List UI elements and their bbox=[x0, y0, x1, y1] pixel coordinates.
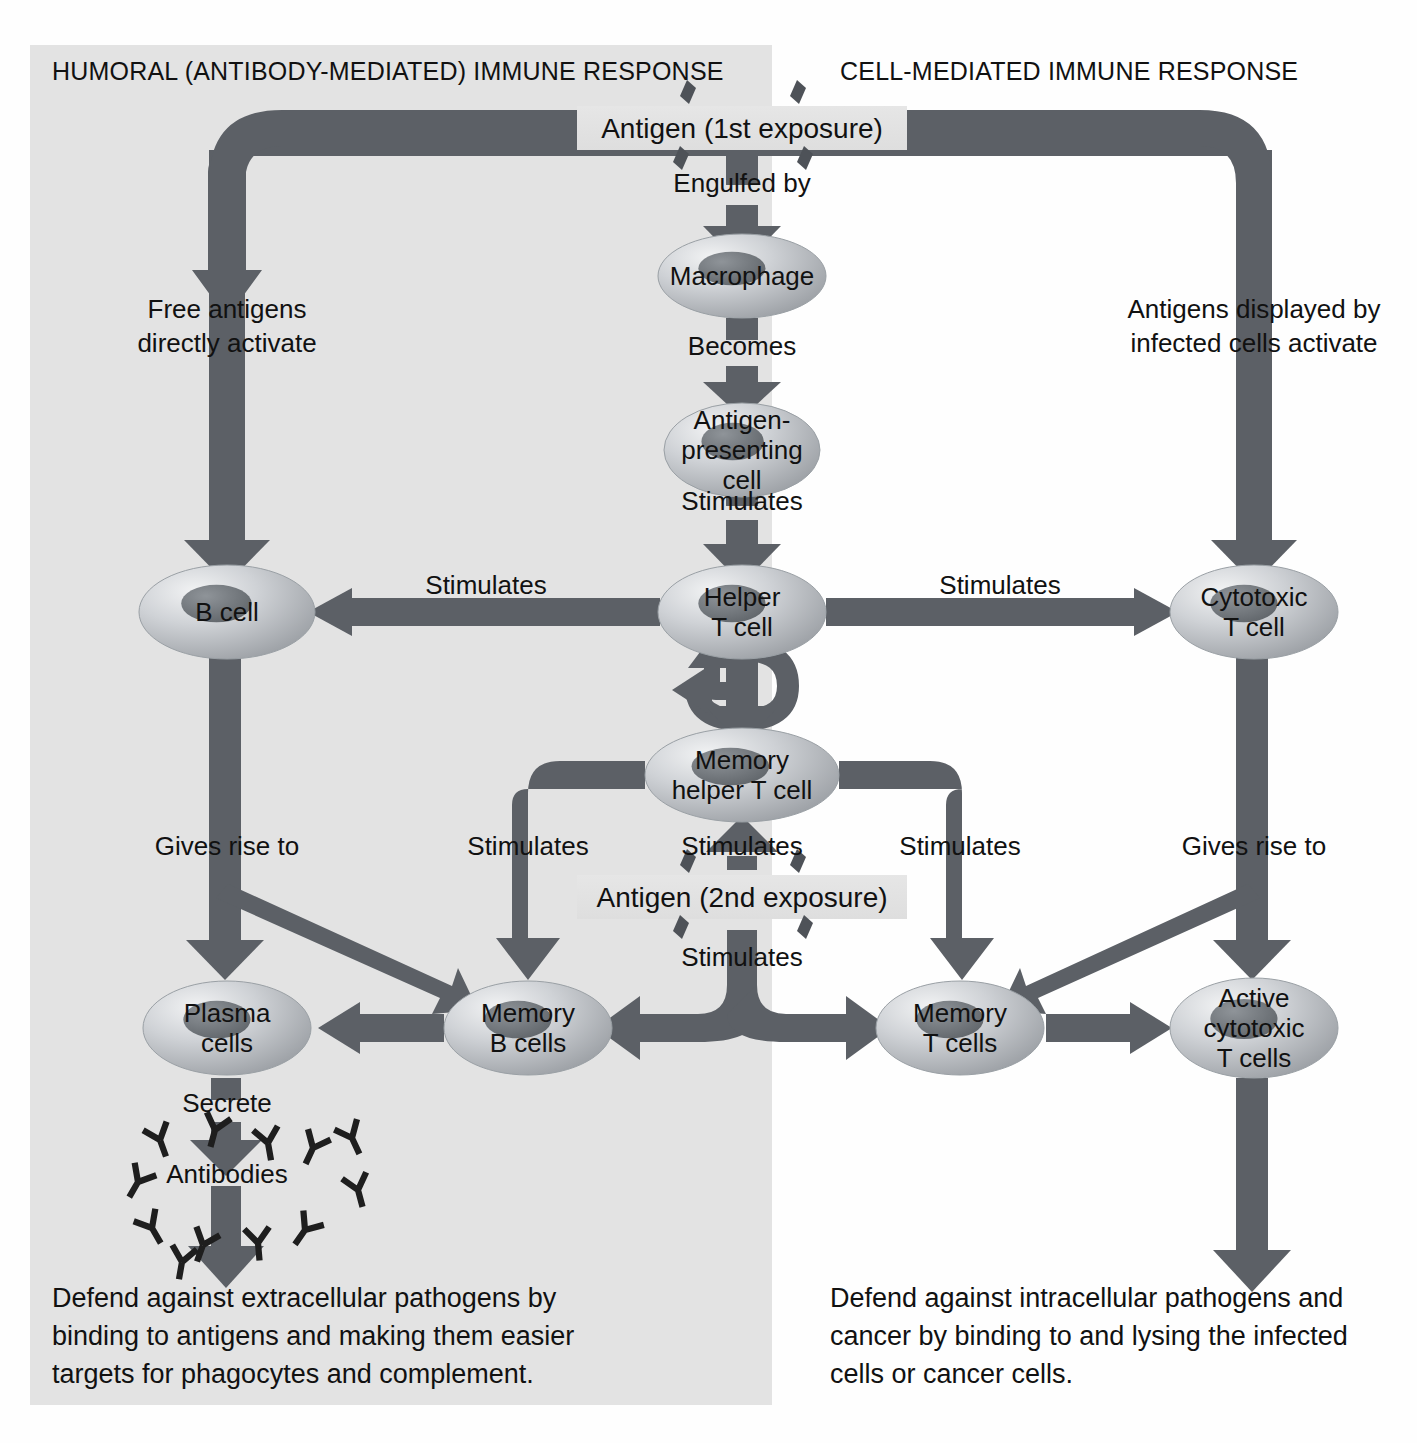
plasma-cells-label: cells bbox=[201, 1028, 253, 1058]
antigens-displayed-2-label: infected cells activate bbox=[1130, 328, 1377, 358]
arrow-shaft-helper-to-bcell bbox=[352, 598, 660, 626]
stimulates-helper-cyto-label: Stimulates bbox=[939, 570, 1060, 600]
cell-mediated-caption-line: cells or cancer cells. bbox=[830, 1359, 1073, 1389]
plasma-cells-label: Plasma bbox=[184, 998, 271, 1028]
cytotoxic-t-cell[interactable]: CytotoxicT cell bbox=[1170, 565, 1338, 659]
cell-mediated-caption-line: Defend against intracellular pathogens a… bbox=[830, 1283, 1343, 1313]
arrow-shaft-active-down bbox=[1236, 1078, 1268, 1260]
immune-response-flowchart: Antigen (1st exposure)Antigen (2nd expos… bbox=[0, 0, 1417, 1443]
arrow-shaft-memoryt-to-active bbox=[1046, 1014, 1130, 1042]
active-cytotoxic-t-cells-label: Active bbox=[1219, 983, 1290, 1013]
b-cell[interactable]: B cell bbox=[139, 565, 315, 659]
helper-t-cell-label: Helper bbox=[704, 582, 781, 612]
free-antigens-activate-1-label: Free antigens bbox=[148, 294, 307, 324]
memory-t-cells-label: Memory bbox=[913, 998, 1007, 1028]
becomes-label: Becomes bbox=[688, 331, 796, 361]
humoral-caption: Defend against extracellular pathogens b… bbox=[52, 1283, 574, 1389]
arrow-shaft-helper-to-cytotoxic bbox=[826, 598, 1134, 626]
memory-b-cells-label: Memory bbox=[481, 998, 575, 1028]
cytotoxic-t-cell-label: Cytotoxic bbox=[1201, 582, 1308, 612]
stimulates-helper-b-label: Stimulates bbox=[425, 570, 546, 600]
memory-t-cells-label: T cells bbox=[923, 1028, 998, 1058]
macrophage[interactable]: Macrophage bbox=[658, 234, 826, 318]
humoral-panel-background bbox=[30, 45, 772, 1405]
antigen-presenting-cell[interactable]: Antigen-presentingcell bbox=[664, 403, 820, 497]
diagram-canvas: Antigen (1st exposure)Antigen (2nd expos… bbox=[0, 0, 1417, 1443]
gives-rise-to-right-label: Gives rise to bbox=[1182, 831, 1327, 861]
b-cell-label: B cell bbox=[195, 597, 259, 627]
memory-helper-t-cell-label: helper T cell bbox=[672, 775, 813, 805]
humoral-caption-line: Defend against extracellular pathogens b… bbox=[52, 1283, 557, 1313]
engulfed-by-label: Engulfed by bbox=[673, 168, 810, 198]
cell-mediated-panel-title: CELL-MEDIATED IMMUNE RESPONSE bbox=[840, 57, 1298, 85]
antigen-first-label: Antigen (1st exposure) bbox=[601, 113, 883, 144]
cell-mediated-caption-line: cancer by binding to and lysing the infe… bbox=[830, 1321, 1348, 1351]
active-cytotoxic-t-cells-label: cytotoxic bbox=[1203, 1013, 1304, 1043]
humoral-panel-title: HUMORAL (ANTIBODY-MEDIATED) IMMUNE RESPO… bbox=[52, 57, 724, 85]
arrow-shaft-helper-to-memhelper bbox=[726, 650, 758, 714]
humoral-caption-line: binding to antigens and making them easi… bbox=[52, 1321, 574, 1351]
memory-b-cells-label: B cells bbox=[490, 1028, 567, 1058]
stimulates-memb-left-label: Stimulates bbox=[467, 831, 588, 861]
antigen-presenting-cell-label: Antigen- bbox=[694, 405, 791, 435]
stimulates-apc-helper-label: Stimulates bbox=[681, 486, 802, 516]
helper-t-cell-label: T cell bbox=[711, 612, 773, 642]
stimulates-second-down-label: Stimulates bbox=[681, 942, 802, 972]
gives-rise-to-left-label: Gives rise to bbox=[155, 831, 300, 861]
arrow-shaft-memoryb-to-plasma bbox=[360, 1014, 444, 1042]
secrete-label: Secrete bbox=[182, 1088, 272, 1118]
antigen-presenting-cell-label: presenting bbox=[681, 435, 802, 465]
memory-b-cells[interactable]: MemoryB cells bbox=[444, 981, 612, 1075]
memory-helper-t-cell-label: Memory bbox=[695, 745, 789, 775]
active-cytotoxic-t-cells-label: T cells bbox=[1217, 1043, 1292, 1073]
antibodies-label: Antibodies bbox=[166, 1159, 287, 1189]
memory-t-cells[interactable]: MemoryT cells bbox=[876, 981, 1044, 1075]
active-cytotoxic-t-cells[interactable]: ActivecytotoxicT cells bbox=[1170, 978, 1338, 1078]
cytotoxic-t-cell-label: T cell bbox=[1223, 612, 1285, 642]
antigens-displayed-1-label: Antigens displayed by bbox=[1128, 294, 1381, 324]
plasma-cells[interactable]: Plasmacells bbox=[143, 981, 311, 1075]
antigen-second-label: Antigen (2nd exposure) bbox=[596, 882, 887, 913]
memory-helper-t-cell[interactable]: Memoryhelper T cell bbox=[645, 728, 839, 822]
stimulates-memhelper-up-label: Stimulates bbox=[681, 831, 802, 861]
macrophage-label: Macrophage bbox=[670, 261, 815, 291]
stimulates-memt-right-label: Stimulates bbox=[899, 831, 1020, 861]
humoral-caption-line: targets for phagocytes and complement. bbox=[52, 1359, 534, 1389]
free-antigens-activate-2-label: directly activate bbox=[137, 328, 316, 358]
helper-t-cell[interactable]: HelperT cell bbox=[658, 565, 826, 659]
